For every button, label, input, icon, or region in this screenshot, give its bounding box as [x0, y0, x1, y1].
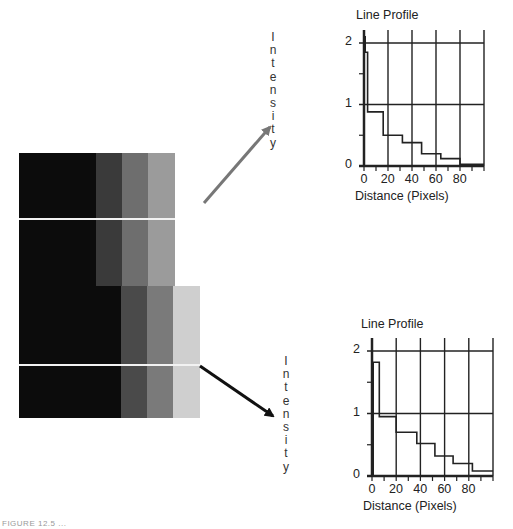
- x-tick-label: 60: [437, 482, 451, 496]
- x-axis-title: Distance (Pixels): [363, 499, 457, 513]
- profile-line: [373, 362, 493, 476]
- x-tick-label: 80: [462, 482, 476, 496]
- y-tick-label: 0: [353, 467, 360, 481]
- figure-caption: FIGURE 12.5 ...: [2, 519, 66, 528]
- y-tick-label: 1: [353, 405, 360, 419]
- chart-plot-area: [0, 0, 513, 529]
- y-tick-label: 2: [353, 342, 360, 356]
- x-tick-label: 40: [413, 482, 427, 496]
- x-tick-label: 0: [368, 482, 375, 496]
- x-tick-label: 20: [389, 482, 403, 496]
